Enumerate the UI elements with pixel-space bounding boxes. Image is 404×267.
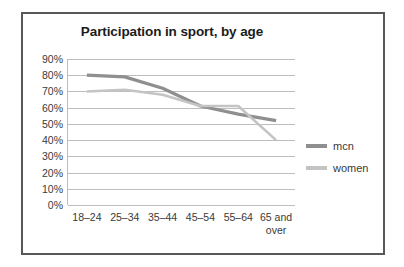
- y-axis-tick-label: 60%: [42, 102, 63, 114]
- legend-label: mcn: [333, 140, 354, 152]
- legend-item-women[interactable]: women: [306, 157, 368, 179]
- y-axis-tick-label: 10%: [42, 183, 63, 195]
- legend-item-mcn[interactable]: mcn: [306, 135, 368, 157]
- series-lines: [68, 59, 295, 205]
- y-axis-tick-label: 90%: [42, 53, 63, 65]
- plot-area: 90%80%70%60%50%40%30%20%10%0% 18–2425–34…: [68, 59, 295, 205]
- y-axis-tick-label: 70%: [42, 85, 63, 97]
- y-axis-tick-label: 80%: [42, 69, 63, 81]
- y-axis-tick-label: 30%: [42, 150, 63, 162]
- legend-swatch-icon: [306, 144, 327, 148]
- gridline: [68, 205, 295, 206]
- legend-swatch-icon: [306, 166, 327, 170]
- y-axis-tick-label: 0%: [48, 199, 63, 211]
- y-axis-tick-label: 50%: [42, 118, 63, 130]
- y-axis-tick-label: 20%: [42, 167, 63, 179]
- legend-label: women: [333, 162, 368, 174]
- chart-legend: mcnwomen: [306, 135, 368, 179]
- y-axis-tick-label: 40%: [42, 134, 63, 146]
- figure-frame: Participation in sport, by age 90%80%70%…: [21, 12, 385, 255]
- chart-title: Participation in sport, by age: [37, 24, 307, 39]
- x-axis-tick-label: 65 andover: [252, 211, 300, 236]
